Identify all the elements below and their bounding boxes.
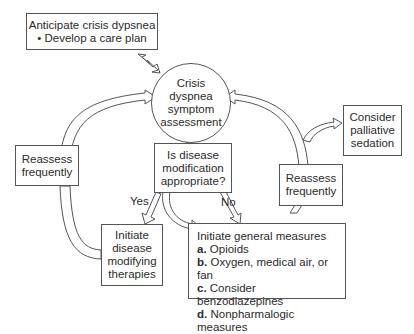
general-measure-item: d. Nonpharmalogic measures: [197, 308, 345, 334]
decision-line: Is disease: [167, 149, 219, 162]
decision-box: Is disease modification appropriate?: [154, 143, 232, 193]
anticipate-crisis-box: Anticipate crisis dypsnea • Develop a ca…: [26, 13, 158, 50]
reassess-left-line: frequently: [22, 166, 73, 179]
therapies-line: Initiate: [115, 229, 149, 242]
general-measures-box: Initiate general measures a. Opioids b. …: [188, 223, 346, 299]
palliative-line: Consider: [349, 111, 395, 124]
assessment-line: assessment: [152, 116, 230, 129]
reassess-right-line: Reassess: [286, 172, 337, 185]
decision-line: appropriate?: [161, 175, 226, 188]
disease-therapies-box: Initiate disease modifying therapies: [101, 224, 163, 286]
reassess-left-line: Reassess: [22, 153, 73, 166]
reassess-right-line: frequently: [286, 185, 337, 198]
palliative-line: palliative: [350, 124, 395, 137]
arrow-reassess-right-to-palliative: [303, 118, 342, 142]
assessment-line: Crisis: [152, 77, 230, 90]
therapies-line: modifying: [107, 255, 156, 268]
palliative-line: sedation: [351, 137, 394, 150]
arrow-therapies-to-reassess-left: [60, 186, 101, 259]
therapies-line: disease: [112, 242, 152, 255]
palliative-sedation-box: Consider palliative sedation: [343, 105, 402, 156]
assessment-line: symptom: [152, 103, 230, 116]
assessment-line: dyspnea: [152, 90, 230, 103]
yes-label: Yes: [130, 195, 149, 208]
anticipate-title: Anticipate crisis dypsnea: [29, 19, 156, 32]
reassess-right-box: Reassess frequently: [279, 164, 343, 206]
general-measure-item: b. Oxygen, medical air, or fan: [197, 256, 345, 282]
therapies-line: therapies: [108, 268, 155, 281]
assessment-circle: Crisis dyspnea symptom assessment: [151, 63, 231, 143]
general-measure-item: a. Opioids: [197, 243, 345, 256]
reassess-left-box: Reassess frequently: [15, 145, 79, 186]
general-measures-title: Initiate general measures: [197, 230, 345, 243]
anticipate-bullet: • Develop a care plan: [37, 32, 147, 45]
decision-line: modification: [162, 162, 223, 175]
arrow-reassess-right-to-assessment: [225, 90, 308, 166]
arrow-anticipate-to-assessment: [138, 54, 160, 73]
general-measure-item: c. Consider benzodiazepines: [197, 282, 345, 308]
no-label: No: [221, 196, 236, 209]
